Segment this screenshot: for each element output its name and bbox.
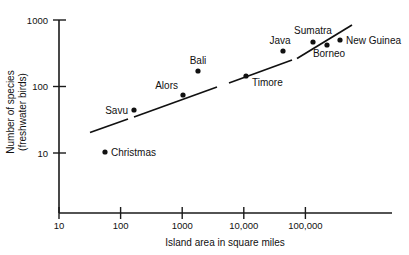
data-point-alors [180, 92, 185, 97]
x-tick-label-100: 100 [113, 220, 129, 231]
y-tick-label-1000: 1000 [27, 15, 48, 26]
data-point-timore [243, 73, 248, 78]
y-tick-label-10: 10 [37, 148, 48, 159]
data-label-savu: Savu [105, 105, 128, 116]
data-label-borneo: Borneo [313, 48, 346, 59]
data-label-bali: Bali [190, 55, 207, 66]
trend-line-segment-1 [90, 119, 128, 133]
y-axis-title-line1: Number of species [5, 70, 16, 153]
data-point-bali [195, 68, 200, 73]
data-point-sumatra [310, 39, 315, 44]
y-tick-label-100: 100 [32, 81, 48, 92]
data-label-java: Java [269, 35, 291, 46]
x-tick-label-100000: 100,000 [288, 220, 322, 231]
data-point-new-guinea [337, 37, 342, 42]
x-axis-title: Island area in square miles [165, 237, 285, 248]
data-point-labels: Christmas Savu Alors Bali Timore Java Su… [105, 25, 401, 158]
data-points [102, 37, 342, 154]
chart-container: 1000 100 10 10 100 1000 10,000 100,000 I… [0, 0, 409, 255]
data-point-christmas [102, 149, 107, 154]
y-axis-title-line2: (freshwater birds) [17, 73, 28, 151]
data-label-christmas: Christmas [111, 147, 156, 158]
data-point-savu [131, 107, 136, 112]
x-tick-label-1000: 1000 [172, 220, 193, 231]
species-area-scatter-plot: 1000 100 10 10 100 1000 10,000 100,000 I… [0, 0, 409, 255]
data-label-new-guinea: New Guinea [346, 35, 401, 46]
data-label-sumatra: Sumatra [294, 25, 332, 36]
x-tick-label-10000: 10,000 [229, 220, 258, 231]
data-label-timore: Timore [252, 77, 283, 88]
x-tick-label-10: 10 [54, 220, 65, 231]
data-point-borneo [324, 42, 329, 47]
data-label-alors: Alors [155, 80, 178, 91]
trend-line-segment-2 [134, 87, 217, 117]
data-point-java [280, 48, 285, 53]
